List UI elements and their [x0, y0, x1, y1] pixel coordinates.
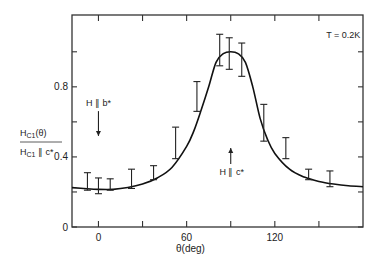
arrowhead-icon	[96, 131, 101, 136]
error-bar	[84, 173, 91, 191]
x-tick-label: 120	[266, 232, 283, 243]
chart: 060120 00.40.8 T = 0.2KH ∥ b*H ∥ c* θ(de…	[0, 0, 382, 264]
x-axis-ticks: 060120	[96, 15, 319, 243]
error-bar	[193, 82, 200, 112]
fit-curve	[72, 52, 363, 190]
plot-frame	[72, 15, 363, 227]
h-parallel-c-label: H ∥ c*	[219, 167, 244, 177]
x-axis-label: θ(deg)	[176, 243, 205, 254]
error-bar	[226, 38, 233, 70]
y-axis-ticks: 00.40.8	[54, 52, 363, 233]
x-tick-label: 0	[96, 232, 102, 243]
annotations: T = 0.2KH ∥ b*H ∥ c*	[86, 30, 360, 177]
x-tick-label: 60	[181, 232, 193, 243]
fit-line	[72, 52, 363, 190]
y-label-denominator: HC1 ∥ c*	[20, 147, 54, 158]
arrowhead-icon	[228, 148, 233, 153]
error-bar	[282, 138, 289, 159]
h-parallel-b-label: H ∥ b*	[86, 98, 112, 108]
error-bar	[150, 166, 157, 180]
axes-frame	[72, 15, 363, 227]
error-bars	[84, 34, 334, 193]
y-tick-label: 0.8	[54, 81, 68, 92]
error-bar	[107, 179, 114, 190]
temperature-label: T = 0.2K	[326, 30, 360, 40]
error-bar	[95, 178, 102, 194]
y-tick-label: 0.4	[54, 151, 68, 162]
y-label-numerator: HC1(θ)	[20, 128, 46, 139]
y-tick-label: 0	[62, 222, 68, 233]
error-bar	[172, 127, 179, 159]
